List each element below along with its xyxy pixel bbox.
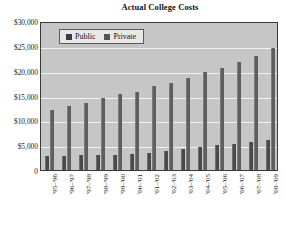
bar-private-2 (84, 103, 88, 170)
y-axis-tick-label: $30,000 (2, 18, 40, 27)
x-axis-tick-label: '96–'97 (68, 174, 76, 194)
bar-private-1 (67, 106, 71, 170)
bar-public-4 (113, 155, 117, 170)
bar-public-13 (266, 140, 270, 170)
bar-group (262, 23, 279, 170)
bar-private-10 (220, 68, 224, 170)
bar-group (160, 23, 177, 170)
bar-group (41, 23, 58, 170)
bar-group (109, 23, 126, 170)
college-costs-bar-chart: Actual College Costs $30,000$25,000$20,0… (0, 0, 286, 226)
x-axis-tick-label: '06–'07 (238, 174, 246, 194)
y-axis-tick-label: $10,000 (2, 117, 40, 126)
y-axis-tick-label: 0 (2, 167, 40, 176)
bar-public-9 (198, 147, 202, 170)
bar-public-3 (96, 155, 100, 170)
bar-group (177, 23, 194, 170)
bar-private-12 (254, 56, 258, 170)
x-axis-tick-label: '95–'96 (51, 174, 59, 194)
chart-title: Actual College Costs (40, 2, 280, 12)
bar-public-8 (181, 149, 185, 170)
bar-group (228, 23, 245, 170)
bar-group (75, 23, 92, 170)
x-axis-tick-label: '05–'06 (221, 174, 229, 194)
legend-label: Public (75, 32, 95, 41)
bar-private-13 (271, 48, 275, 170)
y-axis: $30,000$25,000$20,000$15,000$10,000$5,00… (0, 22, 40, 171)
x-axis-tick-label: '99–'00 (119, 174, 127, 194)
public-swatch-icon (66, 34, 72, 40)
bar-group (245, 23, 262, 170)
x-axis-tick-label: '03–'04 (187, 174, 195, 194)
bar-public-12 (249, 142, 253, 170)
legend-entry-public: Public (66, 32, 95, 41)
x-axis-tick-label: '08–'09 (272, 174, 280, 194)
bar-private-7 (169, 83, 173, 170)
bar-group (194, 23, 211, 170)
bar-public-1 (62, 156, 66, 170)
bar-group (211, 23, 228, 170)
x-axis-tick-label: '01–'02 (153, 174, 161, 194)
y-axis-tick-label: $15,000 (2, 92, 40, 101)
x-axis-tick-label: '97–'98 (85, 174, 93, 194)
bar-public-11 (232, 144, 236, 170)
bar-public-5 (130, 154, 134, 170)
bar-group (92, 23, 109, 170)
bars-layer (41, 23, 277, 170)
chart-legend: PublicPrivate (59, 29, 144, 44)
bar-public-10 (215, 145, 219, 170)
legend-entry-private: Private (104, 32, 136, 41)
bar-private-5 (135, 92, 139, 170)
x-axis-tick-label: '07–'08 (255, 174, 263, 194)
x-axis-tick-label: '00–'01 (136, 174, 144, 194)
bar-group (143, 23, 160, 170)
bar-public-2 (79, 155, 83, 170)
bar-private-0 (50, 110, 54, 170)
bar-private-4 (118, 94, 122, 170)
bar-public-7 (164, 151, 168, 170)
x-axis-tick-label: '98–'99 (102, 174, 110, 194)
bar-public-6 (147, 153, 151, 170)
bar-private-11 (237, 62, 241, 170)
bar-private-6 (152, 86, 156, 170)
bar-group (58, 23, 75, 170)
y-axis-tick-label: $20,000 (2, 67, 40, 76)
bar-private-3 (101, 98, 105, 170)
y-axis-tick-label: $5,000 (2, 142, 40, 151)
legend-label: Private (113, 32, 136, 41)
x-axis-tick-label: '02–'03 (170, 174, 178, 194)
y-axis-tick-label: $25,000 (2, 42, 40, 51)
private-swatch-icon (104, 34, 110, 40)
plot-area: PublicPrivate (40, 22, 278, 171)
x-axis-tick-label: '04–'05 (204, 174, 212, 194)
x-axis: '95–'96'96–'97'97–'98'98–'99'99–'00'00–'… (40, 172, 278, 226)
bar-public-0 (45, 156, 49, 170)
bar-group (126, 23, 143, 170)
bar-private-8 (186, 78, 190, 170)
bar-private-9 (203, 72, 207, 170)
